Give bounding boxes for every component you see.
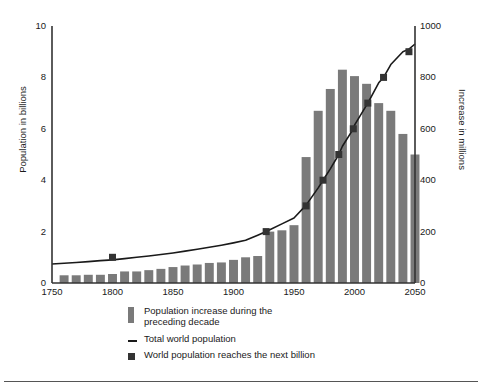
chart-legend: Population increase during the preceding… <box>128 306 428 365</box>
bar-swatch-icon <box>128 306 144 323</box>
legend-item-line: Total world population <box>128 334 428 345</box>
milestone-marker-1b <box>109 254 116 261</box>
bar-1950 <box>290 225 299 283</box>
x-tick-1850: 1850 <box>153 286 193 297</box>
milestone-marker-3b <box>303 202 310 209</box>
bar-1910 <box>241 257 250 283</box>
milestone-marker-5b <box>335 151 342 158</box>
bar-1920 <box>253 256 262 283</box>
bar-1930 <box>265 232 274 283</box>
footer-divider <box>4 381 478 382</box>
bar-1940 <box>277 230 286 283</box>
legend-label-line: Total world population <box>144 334 236 345</box>
x-tick-1800: 1800 <box>93 286 133 297</box>
bar-2020 <box>374 103 383 283</box>
y-right-tick-400: 400 <box>420 174 450 185</box>
bar-1900 <box>229 260 238 283</box>
bar-1770 <box>72 275 81 283</box>
line-swatch-icon <box>128 334 144 342</box>
milestone-marker-8b <box>380 74 387 81</box>
bar-1880 <box>205 263 214 283</box>
bar-1980 <box>326 89 335 283</box>
y-left-tick-10: 10 <box>20 20 46 31</box>
y-left-tick-4: 4 <box>20 174 46 185</box>
bar-1960 <box>302 157 311 283</box>
bar-2010 <box>362 84 371 283</box>
y-right-tick-200: 200 <box>420 226 450 237</box>
square-swatch-icon <box>128 350 144 360</box>
bar-1840 <box>156 269 165 283</box>
x-tick-2050: 2050 <box>395 286 435 297</box>
y-right-tick-1000: 1000 <box>420 20 450 31</box>
y-left-tick-6: 6 <box>20 123 46 134</box>
milestone-marker-9b <box>405 48 412 55</box>
bar-1870 <box>193 265 202 284</box>
bar-1820 <box>132 271 141 283</box>
milestone-marker-4b <box>320 177 327 184</box>
legend-label-marker: World population reaches the next billio… <box>144 350 315 361</box>
bar-2000 <box>350 76 359 283</box>
bar-1890 <box>217 262 226 283</box>
x-tick-1900: 1900 <box>214 286 254 297</box>
milestone-marker-6b <box>350 125 357 132</box>
bar-1780 <box>84 275 93 283</box>
bar-2030 <box>386 111 395 283</box>
legend-item-bar: Population increase during the preceding… <box>128 306 428 327</box>
bar-1830 <box>144 270 153 283</box>
milestone-marker-7b <box>364 100 371 107</box>
bar-1810 <box>120 271 129 283</box>
y-right-tick-800: 800 <box>420 71 450 82</box>
bar-1760 <box>60 275 69 283</box>
bar-1790 <box>96 275 105 283</box>
x-tick-1950: 1950 <box>274 286 314 297</box>
bar-1800 <box>108 274 117 283</box>
bar-1860 <box>181 266 190 283</box>
y-right-tick-600: 600 <box>420 123 450 134</box>
legend-item-marker: World population reaches the next billio… <box>128 350 428 361</box>
y-left-tick-8: 8 <box>20 71 46 82</box>
bar-1850 <box>169 267 178 283</box>
y-left-tick-2: 2 <box>20 226 46 237</box>
legend-label-bar: Population increase during the preceding… <box>144 306 272 327</box>
milestone-marker-2b <box>263 228 270 235</box>
bar-1970 <box>314 111 323 283</box>
x-tick-1750: 1750 <box>32 286 72 297</box>
y-axis-right-title: Increase in millions <box>457 60 468 200</box>
bar-2040 <box>398 134 407 283</box>
x-tick-2000: 2000 <box>335 286 375 297</box>
bar-1990 <box>338 70 347 283</box>
